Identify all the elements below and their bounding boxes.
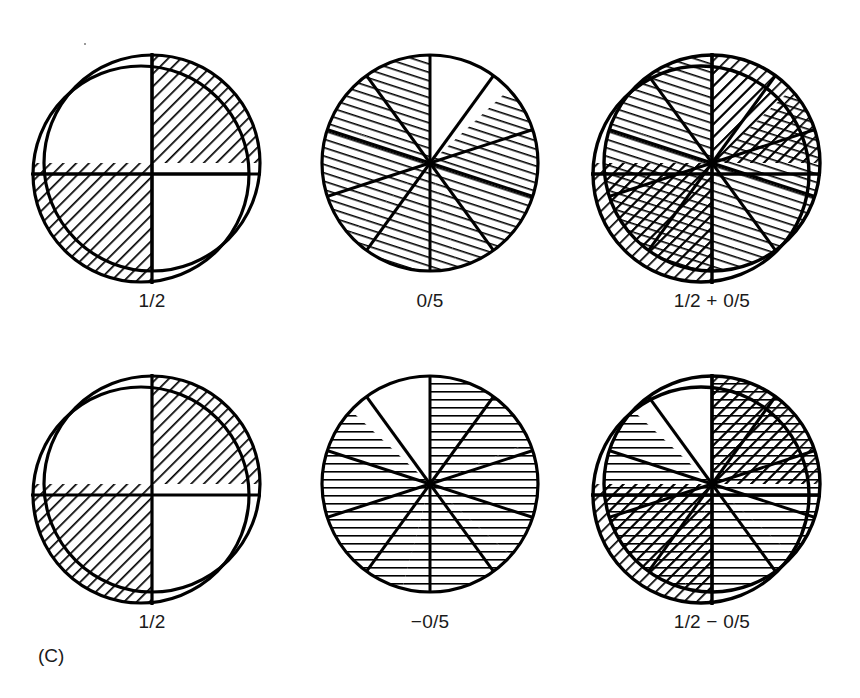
disc-sum-top (582, 38, 842, 288)
disc-fifth-top (300, 38, 560, 288)
pinwheel-sectors-top (300, 38, 560, 288)
panel-top-left: 1/2 (22, 38, 282, 313)
disc-fifth-bottom (300, 359, 560, 609)
caption-bottom-left: 1/2 (22, 611, 282, 633)
pinwheel-sectors-bottom (300, 359, 560, 609)
disc-half-bottom (22, 359, 282, 609)
figure-root: 1/2 (0, 0, 860, 698)
caption-top-center: 0/5 (300, 290, 560, 312)
panel-letter-label: (C) (38, 645, 64, 667)
scan-speck (84, 43, 86, 45)
caption-bottom-right: 1/2 − 0/5 (582, 611, 842, 633)
panel-bottom-right: 1/2 − 0/5 (582, 359, 842, 634)
panel-bottom-center: −0/5 (300, 359, 560, 634)
panel-top-right: 1/2 + 0/5 (582, 38, 842, 313)
caption-bottom-center: −0/5 (300, 611, 560, 633)
disc-half-top (22, 38, 282, 288)
caption-top-left: 1/2 (22, 290, 282, 312)
disc-difference-bottom (582, 359, 842, 609)
panel-top-center: 0/5 (300, 38, 560, 313)
caption-top-right: 1/2 + 0/5 (582, 290, 842, 312)
panel-bottom-left: 1/2 (22, 359, 282, 634)
